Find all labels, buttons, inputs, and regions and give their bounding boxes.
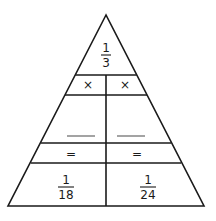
top-numerator: 1 (102, 41, 110, 55)
fraction-triangle-diagram: 1 3 × × = = 1 18 1 24 (0, 0, 216, 221)
top-fraction: 1 3 (101, 41, 111, 70)
left-result-denominator: 18 (58, 188, 73, 202)
left-result-numerator: 1 (62, 173, 70, 187)
multiply-sign-left: × (83, 78, 93, 92)
top-denominator: 3 (102, 56, 110, 70)
equals-sign-right: = (132, 147, 142, 161)
equals-sign-left: = (66, 147, 76, 161)
multiply-sign-right: × (120, 78, 130, 92)
right-result-denominator: 24 (140, 188, 155, 202)
right-result-numerator: 1 (144, 173, 152, 187)
